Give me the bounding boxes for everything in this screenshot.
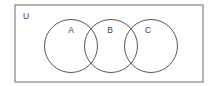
set-label-c: C (145, 25, 151, 35)
universal-set-rectangle (15, 5, 203, 82)
venn-diagram-figure: U A B C (0, 0, 212, 86)
set-label-a: A (68, 25, 74, 35)
venn-diagram-canvas: U A B C (0, 0, 212, 86)
set-label-b: B (107, 25, 113, 35)
universal-set-label: U (23, 11, 29, 21)
